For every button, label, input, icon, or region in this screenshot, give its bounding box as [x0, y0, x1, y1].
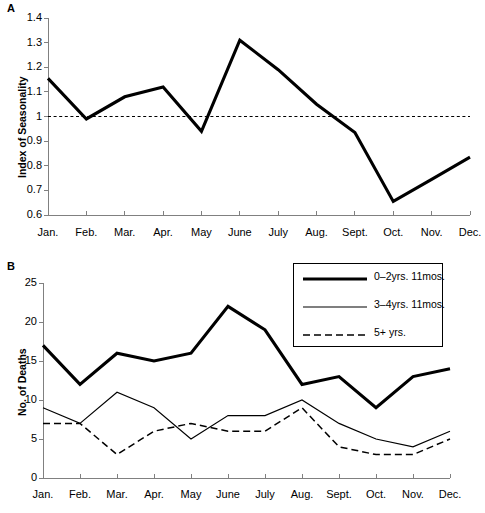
- y-tick-label: 1.2: [8, 60, 42, 72]
- legend-item-0: 0–2yrs. 11mos.: [294, 264, 444, 292]
- y-tick-label: 20: [3, 315, 37, 327]
- y-tick-label: 10: [3, 393, 37, 405]
- y-tick-label: 0: [3, 471, 37, 483]
- legend-label-1: 3–4yrs. 11mos.: [374, 298, 445, 310]
- legend-item-2: 5+ yrs.: [294, 320, 444, 348]
- legend-item-1: 3–4yrs. 11mos.: [294, 292, 444, 320]
- y-tick-label: 0.6: [8, 208, 42, 220]
- legend-swatch-thin: [303, 305, 367, 309]
- y-tick-label: 1.1: [8, 85, 42, 97]
- y-tick-label: 5: [3, 432, 37, 444]
- y-tick-label: 1: [8, 110, 42, 122]
- y-tick-label: 1.4: [8, 11, 42, 23]
- legend-label-2: 5+ yrs.: [374, 326, 406, 338]
- panel-a-plot: [0, 0, 480, 256]
- y-tick-label: 0.9: [8, 134, 42, 146]
- y-tick-label: 25: [3, 276, 37, 288]
- y-tick-label: 0.7: [8, 183, 42, 195]
- legend-label-0: 0–2yrs. 11mos.: [374, 270, 445, 282]
- legend-swatch-dashed: [303, 333, 367, 337]
- x-tick-label: Dec.: [447, 226, 485, 238]
- y-tick-label: 1.3: [8, 36, 42, 48]
- x-tick-label: Dec.: [427, 488, 473, 500]
- panel-a: A Index of Seasonality 1.41.31.21.110.90…: [0, 0, 480, 256]
- legend-swatch-thick: [303, 277, 367, 281]
- legend: 0–2yrs. 11mos. 3–4yrs. 11mos. 5+ yrs.: [293, 263, 443, 347]
- y-tick-label: 0.8: [8, 159, 42, 171]
- y-tick-label: 15: [3, 354, 37, 366]
